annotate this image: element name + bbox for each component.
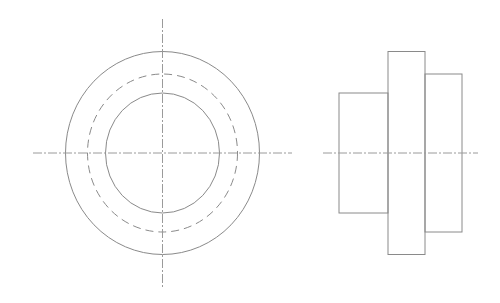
side-view <box>323 52 478 255</box>
technical-drawing <box>0 0 500 303</box>
front-view <box>33 19 292 287</box>
drawing-sheet: orthographic-projection <box>0 0 500 303</box>
